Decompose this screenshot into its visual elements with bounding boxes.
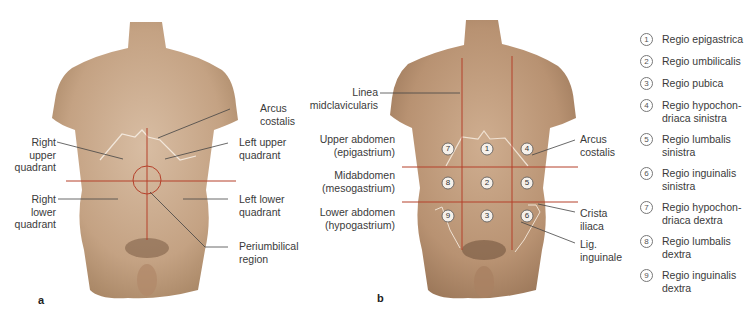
legend-item-1: 1 Regio epigastrica <box>640 33 749 46</box>
legend-text: Regio pubica <box>662 77 723 90</box>
region-number-9: 9 <box>442 210 454 222</box>
label-line: (epigastrium) <box>300 146 395 159</box>
label-line: Right <box>0 136 56 149</box>
number-circle-icon: 1 <box>640 33 653 46</box>
label-crista-iliaca: Crista iliaca <box>580 207 607 232</box>
legend-item-3: 3 Regio pubica <box>640 77 749 90</box>
legend-item-2: 2 Regio umbilicalis <box>640 55 749 68</box>
legend-item-9: 9 Regio inguinalis dextra <box>640 269 749 294</box>
legend-item-6: 6 Regio inguinalis sinistra <box>640 167 749 192</box>
label-line: inguinale <box>580 251 622 264</box>
label-line: Upper abdomen <box>300 133 395 146</box>
panel-letter-a: a <box>38 294 44 306</box>
label-line: upper <box>0 149 56 162</box>
region-number-1: 1 <box>481 143 493 155</box>
label-line: Arcus <box>260 102 295 115</box>
label-line: Periumbilical <box>239 240 299 253</box>
legend-text: Regio umbilicalis <box>662 55 741 68</box>
legend-item-5: 5 Regio lumbalis sinistra <box>640 133 749 158</box>
genital-shape <box>137 264 157 296</box>
label-right-lower-quadrant: Right lower quadrant <box>0 193 56 231</box>
number-circle-icon: 3 <box>640 77 653 90</box>
label-line: Lig. <box>580 238 622 251</box>
number-circle-icon: 7 <box>640 201 653 214</box>
legend-text: Regio hypochon- driaca sinistra <box>662 99 741 124</box>
torso-illustration-b <box>300 0 630 316</box>
pubic-hair-shape <box>462 240 506 260</box>
region-number-2: 2 <box>481 177 493 189</box>
region-number-4: 4 <box>521 143 533 155</box>
label-linea-midclavicularis: Linea midclavicularis <box>300 86 378 111</box>
label-line: quadrant <box>239 206 285 219</box>
number-circle-icon: 6 <box>640 167 653 180</box>
number-circle-icon: 8 <box>640 235 653 248</box>
label-line: quadrant <box>0 161 56 174</box>
legend-text: Regio lumbalis sinistra <box>662 133 731 158</box>
label-lig-inguinale: Lig. inguinale <box>580 238 622 263</box>
label-line: costalis <box>580 146 615 159</box>
label-arcus-costalis-b: Arcus costalis <box>580 133 615 158</box>
panel-a-quadrants: Right upper quadrant Right lower quadran… <box>0 0 250 316</box>
number-circle-icon: 4 <box>640 99 653 112</box>
panel-letter-b: b <box>377 292 384 304</box>
label-lower-abdomen: Lower abdomen (hypogastrium) <box>300 206 395 231</box>
label-left-upper-quadrant: Left upper quadrant <box>239 136 286 161</box>
label-line: Midabdomen <box>300 169 395 182</box>
label-line: Right <box>0 193 56 206</box>
label-left-lower-quadrant: Left lower quadrant <box>239 193 285 218</box>
label-line: (hypogastrium) <box>300 219 395 232</box>
label-line: Left lower <box>239 193 285 206</box>
label-line: region <box>239 253 299 266</box>
legend-item-4: 4 Regio hypochon- driaca sinistra <box>640 99 749 124</box>
pubic-hair-shape <box>125 238 169 258</box>
label-line: Arcus <box>580 133 615 146</box>
legend-text: Regio inguinalis sinistra <box>662 167 736 192</box>
region-number-7: 7 <box>442 143 454 155</box>
label-line: lower <box>0 206 56 219</box>
label-arcus-costalis-a: Arcus costalis <box>260 102 295 127</box>
label-line: Left upper <box>239 136 286 149</box>
label-line: Crista <box>580 207 607 220</box>
label-line: (mesogastrium) <box>300 182 395 195</box>
legend-text: Regio epigastrica <box>662 33 743 46</box>
label-line: midclavicularis <box>300 99 378 112</box>
region-legend: 1 Regio epigastrica 2 Regio umbilicalis … <box>640 33 749 303</box>
legend-text: Regio inguinalis dextra <box>662 269 736 294</box>
number-circle-icon: 5 <box>640 133 653 146</box>
label-periumbilical-region: Periumbilical region <box>239 240 299 265</box>
legend-text: Regio lumbalis dextra <box>662 235 731 260</box>
legend-text: Regio hypochon- driaca dextra <box>662 201 741 226</box>
label-line: iliaca <box>580 220 607 233</box>
region-number-5: 5 <box>521 177 533 189</box>
label-line: quadrant <box>0 218 56 231</box>
region-number-8: 8 <box>442 177 454 189</box>
label-line: Lower abdomen <box>300 206 395 219</box>
label-line: quadrant <box>239 149 286 162</box>
label-line: Linea <box>300 86 378 99</box>
genital-shape <box>474 266 494 298</box>
legend-item-7: 7 Regio hypochon- driaca dextra <box>640 201 749 226</box>
number-circle-icon: 9 <box>640 269 653 282</box>
legend-item-8: 8 Regio lumbalis dextra <box>640 235 749 260</box>
label-midabdomen: Midabdomen (mesogastrium) <box>300 169 395 194</box>
label-line: costalis <box>260 115 295 128</box>
number-circle-icon: 2 <box>640 55 653 68</box>
label-right-upper-quadrant: Right upper quadrant <box>0 136 56 174</box>
panel-b-nine-regions: 7 1 4 8 2 5 9 3 6 Linea midclavicularis … <box>300 0 630 316</box>
region-number-3: 3 <box>481 210 493 222</box>
label-upper-abdomen: Upper abdomen (epigastrium) <box>300 133 395 158</box>
region-number-6: 6 <box>521 210 533 222</box>
